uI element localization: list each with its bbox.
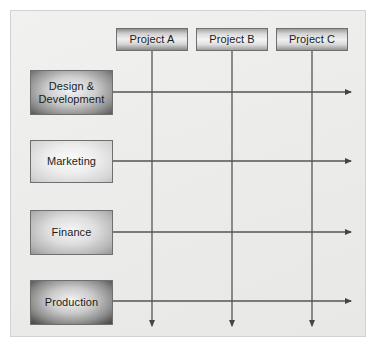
department-box-design-development[interactable]: Design & Development: [30, 70, 113, 115]
diagram-canvas: Project A Project B Project C Design & D…: [0, 0, 381, 351]
project-box-a[interactable]: Project A: [116, 28, 188, 51]
project-box-c[interactable]: Project C: [276, 28, 348, 51]
department-box-finance[interactable]: Finance: [30, 210, 113, 255]
department-box-marketing[interactable]: Marketing: [30, 140, 113, 183]
project-box-b[interactable]: Project B: [196, 28, 268, 51]
department-box-production[interactable]: Production: [30, 280, 113, 325]
